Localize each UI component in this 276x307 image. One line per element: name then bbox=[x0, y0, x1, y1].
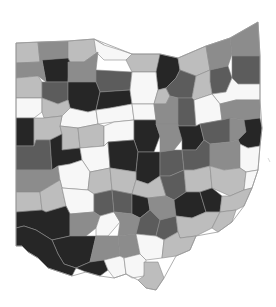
stray-tick-mark bbox=[268, 158, 270, 162]
county-c74 bbox=[70, 212, 100, 236]
county-c36 bbox=[60, 126, 80, 150]
county-c25 bbox=[16, 98, 42, 118]
county-c33 bbox=[220, 100, 260, 120]
county-c66 bbox=[94, 190, 114, 216]
county-c20 bbox=[130, 72, 158, 104]
county-c29 bbox=[132, 104, 156, 120]
county-c67 bbox=[112, 190, 132, 214]
county-c62 bbox=[244, 170, 258, 190]
ohio-choropleth-map bbox=[0, 0, 276, 307]
county-c15 bbox=[96, 70, 132, 92]
county-c10 bbox=[232, 56, 260, 84]
county-c08 bbox=[206, 38, 232, 70]
county-c53 bbox=[240, 144, 260, 172]
county-c05 bbox=[126, 54, 160, 72]
map-canvas bbox=[0, 0, 276, 307]
county-c01 bbox=[16, 42, 40, 63]
county-layer bbox=[16, 22, 262, 290]
county-c09 bbox=[230, 22, 260, 56]
county-c34 bbox=[16, 118, 34, 146]
county-c48 bbox=[108, 140, 138, 172]
county-c52 bbox=[210, 140, 240, 170]
county-c56 bbox=[88, 168, 112, 194]
county-c40 bbox=[156, 124, 182, 152]
county-c60 bbox=[184, 166, 212, 192]
county-c63 bbox=[16, 192, 42, 212]
county-c37 bbox=[78, 124, 104, 148]
county-c31 bbox=[178, 98, 196, 126]
county-c12 bbox=[42, 58, 70, 82]
county-c18 bbox=[68, 82, 100, 112]
county-c16 bbox=[16, 76, 42, 98]
